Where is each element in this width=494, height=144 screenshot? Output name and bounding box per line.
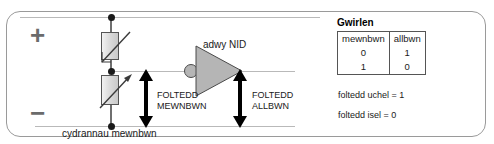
output-voltage-label: FOLTEDD ALLBWN xyxy=(252,90,293,112)
note-low-voltage: foltedd isel = 0 xyxy=(338,110,396,120)
table-header-input: mewnbwn xyxy=(338,32,390,47)
table-cell-output: 0 xyxy=(389,60,425,75)
truth-table: mewnbwn allbwn 0 1 1 0 xyxy=(337,31,426,75)
diagram-page: + − adwy NID FOLTEDD MEWNBWN FOLTEDD ALL… xyxy=(0,0,494,144)
output-voltage-arrow-icon xyxy=(232,69,248,128)
supply-rail-negative xyxy=(35,126,295,127)
note-high-voltage: foltedd uchel = 1 xyxy=(338,90,404,100)
input-voltage-arrow-icon xyxy=(138,69,154,128)
table-cell-input: 0 xyxy=(338,46,390,60)
input-voltage-label-line2: MEWNBWN xyxy=(157,101,207,111)
output-voltage-label-line2: ALLBWN xyxy=(252,101,289,111)
variable-resistor-arrow-icon xyxy=(96,70,138,112)
table-row: 0 1 xyxy=(338,46,426,60)
positive-terminal-sign: + xyxy=(30,22,45,48)
input-voltage-label-line1: FOLTEDD xyxy=(157,90,198,100)
negative-terminal-sign: − xyxy=(30,100,45,126)
supply-rail-positive xyxy=(20,17,320,18)
table-cell-input: 1 xyxy=(338,60,390,75)
ldr-resistor-arrow-icon xyxy=(96,26,136,68)
cut-off-text xyxy=(10,0,13,5)
table-row-header: mewnbwn allbwn xyxy=(338,32,426,47)
table-cell-output: 1 xyxy=(389,46,425,60)
junction-node-top xyxy=(108,14,115,21)
output-voltage-label-line1: FOLTEDD xyxy=(252,90,293,100)
input-voltage-label: FOLTEDD MEWNBWN xyxy=(157,90,207,112)
table-header-output: allbwn xyxy=(389,32,425,47)
input-components-caption: cydrannau mewnbwn xyxy=(62,128,157,139)
gate-label: adwy NID xyxy=(203,39,246,50)
truth-table-title: Gwirlen xyxy=(337,17,374,28)
table-row: 1 0 xyxy=(338,60,426,75)
